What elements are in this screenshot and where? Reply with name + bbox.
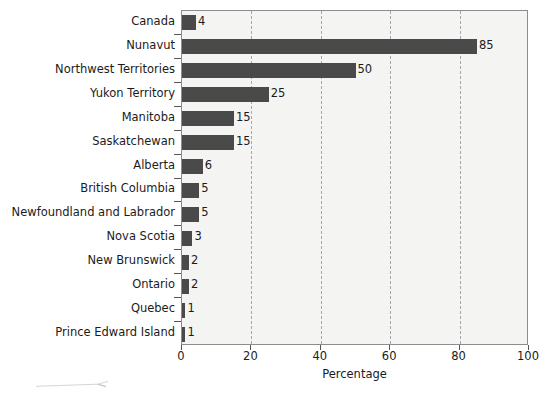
category-label: Canada <box>0 16 175 28</box>
gridline-60 <box>390 11 391 344</box>
x-tick-label: 100 <box>508 351 548 363</box>
bar <box>182 207 199 222</box>
bar-chart-figure: CanadaNunavutNorthwest TerritoriesYukon … <box>0 0 556 395</box>
category-tick <box>174 273 181 274</box>
value-label: 2 <box>191 255 198 267</box>
bar <box>182 279 189 294</box>
category-label: Newfoundland and Labrador <box>0 207 175 219</box>
bar <box>182 135 234 150</box>
x-tick-label: 60 <box>369 351 409 363</box>
value-label: 5 <box>201 183 208 195</box>
value-label: 5 <box>201 207 208 219</box>
x-tick-label: 20 <box>230 351 270 363</box>
value-label: 3 <box>194 231 201 243</box>
bar <box>182 87 269 102</box>
value-label: 1 <box>187 303 194 315</box>
category-label: Nova Scotia <box>0 231 175 243</box>
category-label: Quebec <box>0 303 175 315</box>
value-label: 1 <box>187 327 194 339</box>
bar <box>182 15 196 30</box>
category-tick <box>174 321 181 322</box>
category-tick <box>174 201 181 202</box>
category-label: Manitoba <box>0 112 175 124</box>
value-label: 2 <box>191 279 198 291</box>
category-label: Alberta <box>0 160 175 172</box>
x-tick-label: 0 <box>161 351 201 363</box>
bar <box>182 111 234 126</box>
value-label: 6 <box>205 160 212 172</box>
bar <box>182 39 477 54</box>
value-label: 15 <box>236 112 251 124</box>
category-tick <box>174 154 181 155</box>
x-tick-label: 40 <box>300 351 340 363</box>
value-label: 85 <box>479 40 494 52</box>
x-tick-label: 80 <box>439 351 479 363</box>
category-tick <box>174 178 181 179</box>
category-tick <box>174 225 181 226</box>
category-tick <box>174 82 181 83</box>
category-label: British Columbia <box>0 183 175 195</box>
category-label: Yukon Territory <box>0 88 175 100</box>
bar <box>182 159 203 174</box>
category-label: Nunavut <box>0 40 175 52</box>
bar <box>182 255 189 270</box>
gridline-40 <box>321 11 322 344</box>
category-tick <box>174 297 181 298</box>
category-label: Ontario <box>0 279 175 291</box>
category-label: Prince Edward Island <box>0 327 175 339</box>
plot-area <box>181 10 528 345</box>
value-label: 25 <box>271 88 286 100</box>
value-label: 4 <box>198 16 205 28</box>
category-tick <box>174 106 181 107</box>
category-label: Northwest Territories <box>0 64 175 76</box>
category-tick <box>174 130 181 131</box>
bar <box>182 327 185 342</box>
x-axis-title: Percentage <box>181 369 528 381</box>
category-tick <box>174 58 181 59</box>
gridline-20 <box>251 11 252 344</box>
gridline-80 <box>460 11 461 344</box>
category-label: New Brunswick <box>0 255 175 267</box>
scan-artifact <box>36 381 108 387</box>
bar <box>182 183 199 198</box>
bar <box>182 303 185 318</box>
category-label: Saskatchewan <box>0 136 175 148</box>
bar <box>182 231 192 246</box>
bar <box>182 63 356 78</box>
category-tick <box>174 249 181 250</box>
category-tick <box>174 34 181 35</box>
value-label: 15 <box>236 136 251 148</box>
value-label: 50 <box>358 64 373 76</box>
